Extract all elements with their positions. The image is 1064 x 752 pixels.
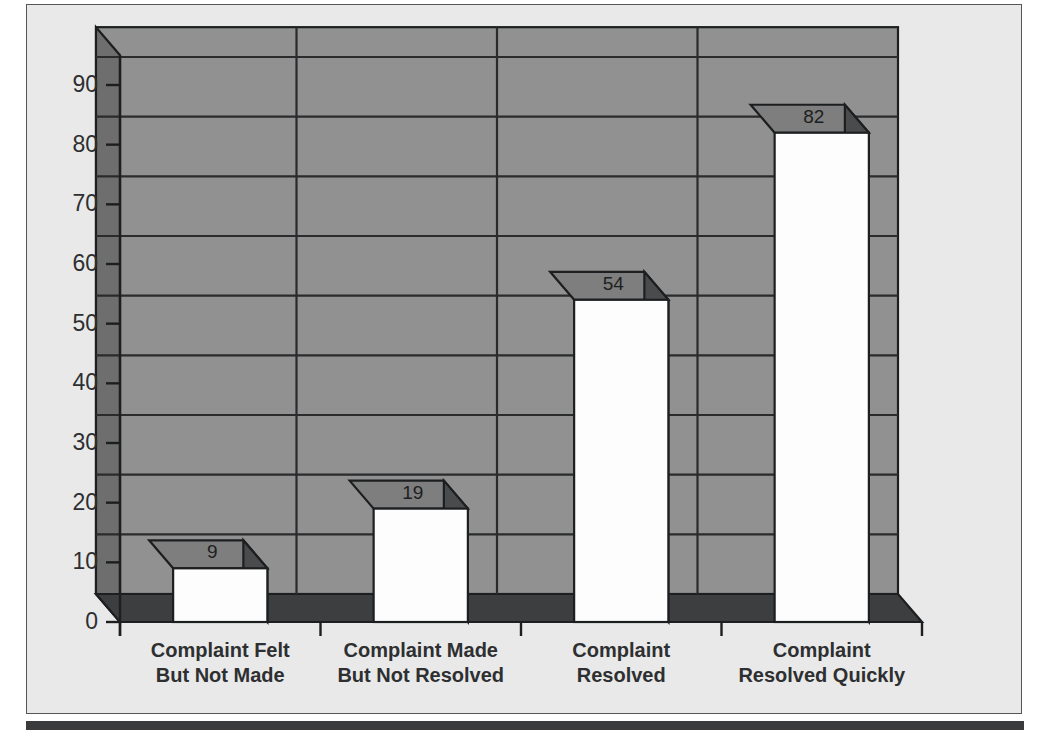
category-axis-label: Complaint Made: [344, 639, 498, 661]
y-axis-tick-label: 90: [72, 71, 98, 97]
category-axis-label: But Not Made: [156, 664, 285, 686]
category-axis-label: Complaint: [572, 639, 670, 661]
y-axis-tick-label: 20: [72, 489, 98, 515]
y-axis-tick-label: 40: [72, 369, 98, 395]
bar-front-face: [574, 300, 668, 622]
category-axis-label: Resolved Quickly: [738, 664, 906, 686]
bar-chart-3d: 01020304050607080909195482Complaint Felt…: [0, 0, 1064, 752]
bar-front-face: [374, 509, 468, 622]
y-axis-tick-label: 50: [72, 310, 98, 336]
bar-value-label: 9: [207, 541, 218, 562]
bar-front-face: [173, 568, 267, 622]
category-axis-label: Complaint: [773, 639, 871, 661]
bar-front-face: [775, 133, 869, 622]
bar-value-label: 54: [603, 273, 625, 294]
y-axis-tick-label: 30: [72, 429, 98, 455]
y-axis-tick-label: 60: [72, 250, 98, 276]
category-axis-label: Resolved: [577, 664, 666, 686]
bar-value-label: 19: [402, 482, 423, 503]
chart-page: 01020304050607080909195482Complaint Felt…: [0, 0, 1064, 752]
y-axis-tick-label: 70: [72, 190, 98, 216]
y-axis-tick-label: 0: [85, 608, 98, 634]
bar-value-label: 82: [803, 106, 824, 127]
y-axis-tick-label: 10: [72, 548, 98, 574]
bottom-rule-divider: [26, 721, 1024, 730]
category-axis-label: But Not Resolved: [337, 664, 504, 686]
category-axis-label: Complaint Felt: [151, 639, 290, 661]
y-axis-tick-label: 80: [72, 131, 98, 157]
